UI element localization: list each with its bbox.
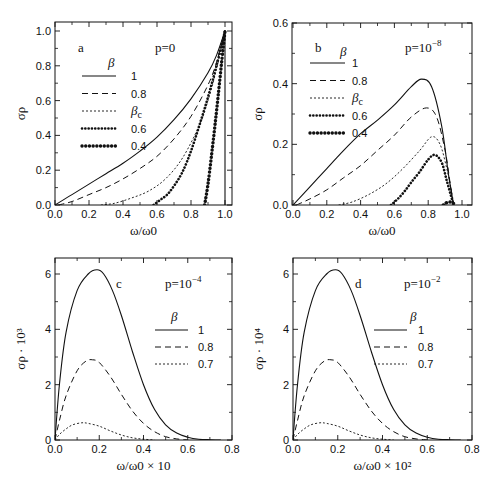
x-tick-label: 0.6 [180,443,195,455]
y-tick-label: 0.6 [36,95,51,107]
x-tick-label: 0.4 [375,443,390,455]
x-axis-label: ω/ω0 × 10 [116,458,170,473]
x-tick-label: 0.8 [224,443,239,455]
series-line-beta-0.8 [293,360,427,440]
x-tick-label: 0.6 [149,208,164,220]
series-line-beta-0.8 [55,360,188,440]
x-tick-label: 0.2 [92,443,107,455]
y-tick-label: 0 [45,434,51,446]
panel-letter: d [355,276,362,291]
legend-label: βc [351,90,363,107]
figure-svg: 0.00.20.40.60.81.00.00.20.40.60.81.0ω/ω0… [0,0,490,489]
annotation-exponent: −2 [431,274,441,284]
legend-label: 1 [198,324,204,336]
legend-title: β [409,309,417,324]
legend-label: 0.6 [131,123,146,135]
legend-title: β [107,55,115,70]
y-tick-label: 1.0 [36,25,51,37]
legend-label: 0.4 [352,127,367,139]
legend-label: 0.6 [352,110,367,122]
y-tick-label: 6 [283,268,289,280]
x-tick-label: 0.8 [183,208,198,220]
chart-panel-c: 0.00.20.40.60.80246ω/ω0 × 10σρ · 10³cp=1… [13,258,240,473]
legend: β10.80.7 [374,309,433,370]
legend-label: 0.8 [131,88,146,100]
y-tick-label: 4 [283,323,289,335]
x-axis-label: ω/ω0 × 10² [354,458,412,473]
x-tick-label: 0.2 [330,443,345,455]
plot-frame [293,258,472,440]
x-tick-label: 0.8 [464,443,479,455]
y-tick-label: 0.6 [273,17,288,29]
legend-label: 0.8 [418,341,433,353]
legend-label: 0.8 [352,75,367,87]
series-line-beta-0.7 [293,423,394,440]
x-tick-label: 0.4 [115,208,130,220]
legend-label: 0.7 [198,358,213,370]
parameter-annotation: p=0 [155,40,175,55]
x-axis-label: ω/ω0 [130,223,157,238]
annotation-exponent: −4 [192,274,202,284]
legend: β10.8βc0.60.4 [82,55,146,152]
y-axis-label: σρ [250,107,265,121]
y-tick-label: 0.2 [273,138,288,150]
y-tick-label: 0 [283,434,289,446]
y-tick-label: 0.4 [273,78,288,90]
y-tick-label: 2 [283,379,289,391]
y-tick-label: 4 [45,323,51,335]
legend-label: 0.4 [131,140,146,152]
y-tick-label: 2 [45,379,51,391]
legend-label: 1 [131,70,137,82]
series-line-beta-0.4 [205,31,225,205]
legend: β10.8βc0.60.4 [310,44,367,139]
legend-label: 1 [352,57,358,69]
annotation-exponent: −8 [432,38,442,48]
panel-letter: c [116,276,122,291]
chart-panel-a: 0.00.20.40.60.81.00.00.20.40.60.81.0ω/ω0… [13,22,233,238]
panel-letter: a [78,40,84,55]
y-tick-label: 0.2 [36,164,51,176]
x-axis-label: ω/ω0 [368,223,395,238]
series-line-beta-0.6 [391,155,454,205]
series-line-beta-0.7 [55,423,155,440]
y-tick-label: 0.8 [36,60,51,72]
parameter-annotation: p=10−2 [404,274,440,291]
x-tick-label: 1.0 [454,208,469,220]
legend-label: 1 [418,324,424,336]
panel-letter: b [315,40,322,55]
series-line-beta-1 [293,270,461,440]
legend-title: β [339,44,347,59]
series-line-beta-βc [101,31,225,205]
series-line-beta-0.6 [154,31,225,205]
x-tick-label: 0.6 [420,443,435,455]
y-axis-label: σρ · 10³ [13,328,28,369]
series-line-beta-βc [339,137,454,205]
x-tick-label: 0.6 [387,208,402,220]
y-tick-label: 0.0 [273,199,288,211]
x-tick-label: 0.4 [353,208,368,220]
legend-label: βc [130,103,142,120]
legend: β10.80.7 [155,309,213,370]
legend-title: β [170,309,178,324]
y-axis-label: σρ · 10⁴ [251,328,266,370]
series-line-beta-1 [55,270,221,440]
y-axis-label: σρ [13,107,28,121]
series-line-beta-1 [293,79,454,205]
y-tick-label: 0.4 [36,129,51,141]
x-tick-label: 0.2 [81,208,96,220]
chart-panel-d: 0.00.20.40.60.80246ω/ω0 × 10²σρ · 10⁴dp=… [251,258,480,473]
legend-label: 0.7 [418,358,433,370]
parameter-annotation: p=10−4 [165,274,202,291]
x-tick-label: 0.2 [319,208,334,220]
legend-label: 0.8 [198,341,213,353]
y-tick-label: 0.0 [36,199,51,211]
x-tick-label: 0.8 [421,208,436,220]
x-tick-label: 1.0 [217,208,232,220]
chart-panel-b: 0.00.20.40.60.81.00.00.20.40.6ω/ω0σρbp=1… [250,17,472,238]
parameter-annotation: p=10−8 [405,38,442,55]
x-tick-label: 0.4 [136,443,151,455]
y-tick-label: 6 [45,268,51,280]
